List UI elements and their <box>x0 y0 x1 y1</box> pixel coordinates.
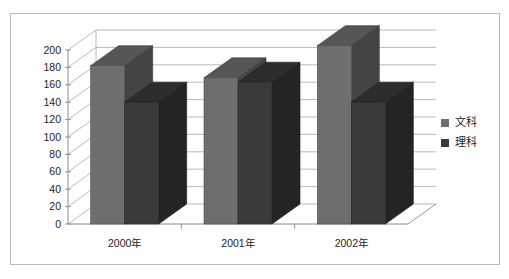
legend-label: 文科 <box>455 117 477 128</box>
y-tick-label: 200 <box>43 44 61 56</box>
bar-2000年-理科 <box>125 82 187 224</box>
bar-chart-3d: 0204060801001201401601802002000年2001年200… <box>0 0 509 279</box>
x-axis-labels: 2000年2001年2002年 <box>108 237 368 249</box>
legend-label: 理科 <box>455 137 477 148</box>
legend-swatch-icon <box>441 119 449 127</box>
bar-front-face <box>351 102 385 224</box>
bar-side-face <box>272 62 300 224</box>
x-axis-label: 2001年 <box>221 237 254 249</box>
legend-swatch-icon <box>441 139 449 147</box>
y-tick-label: 40 <box>49 183 61 195</box>
bar-front-face <box>238 82 272 224</box>
bars-group <box>91 26 414 224</box>
y-tick-label: 20 <box>49 200 61 212</box>
legend-item-理科[interactable]: 理科 <box>441 137 503 148</box>
chart-legend: 文科理科 <box>441 117 503 148</box>
bar-front-face <box>91 66 125 224</box>
grid-depth-line <box>68 30 96 50</box>
y-tick-label: 0 <box>55 218 61 230</box>
bar-front-face <box>204 78 238 224</box>
bar-2002年-理科 <box>351 82 413 224</box>
bar-side-face <box>159 82 187 224</box>
y-tick-label: 180 <box>43 61 61 73</box>
y-tick-label: 60 <box>49 165 61 177</box>
y-tick-label: 140 <box>43 96 61 108</box>
grid-depth-line <box>68 47 96 67</box>
y-tick-label: 100 <box>43 131 61 143</box>
floor-right-edge <box>408 204 436 224</box>
bar-2001年-理科 <box>238 62 300 224</box>
x-axis-label: 2002年 <box>335 237 368 249</box>
x-axis-ticks <box>181 224 294 229</box>
y-tick-label: 120 <box>43 113 61 125</box>
bar-side-face <box>385 82 413 224</box>
y-tick-label: 80 <box>49 148 61 160</box>
bar-front-face <box>125 102 159 224</box>
x-axis-label: 2000年 <box>108 237 141 249</box>
y-tick-label: 160 <box>43 78 61 90</box>
bar-front-face <box>317 46 351 224</box>
legend-item-文科[interactable]: 文科 <box>441 117 503 128</box>
